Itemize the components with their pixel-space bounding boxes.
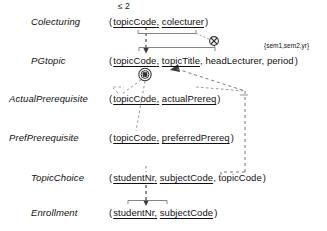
close-paren: ) [230,132,235,143]
attr-sep: , [262,55,265,66]
attribute-studentnr: studentNr [113,207,154,218]
attribute-topiccode: topicCode [219,172,262,183]
attribute-topictitle: topicTitle [162,55,200,66]
attribute-period: period [267,55,294,66]
attribute-topiccode: topicCode [113,16,156,27]
fk-arrow-topicchoice-to-enrollment [128,185,167,204]
cardinality-constraint-label: ≤ 2 [118,1,130,11]
relation-name-topicchoice: TopicChoice [31,172,84,183]
schema-diagram-canvas: ≤ 2 {sem1,sem2,yr} Colecturing (topicCod… [0,0,327,231]
close-paren: ) [262,172,267,183]
bracket-pgtopic [139,44,215,51]
fk-arrow-topicchoice-to-pgtopic [177,69,245,176]
xor-branch-to-actualprerequisite [122,80,141,94]
close-paren: ) [294,55,299,66]
relation-attributes-enrollment: (studentNr, subjectCode) [108,207,218,218]
close-paren: ) [204,16,209,27]
relation-attributes-pgtopic: (topicCode, topicTitle, headLecturer, pe… [108,55,299,66]
relation-name-prefprerequisite: PrefPrerequisite [9,132,79,143]
attribute-preferredprereq: preferredPrereq [162,132,230,143]
exclusive-or-constraint-symbol [139,68,151,80]
xor-branch-to-prefprerequisite [136,81,145,131]
relation-attributes-topicchoice: (studentNr, subjectCode, topicCode) [108,172,267,183]
close-paren: ) [216,93,221,104]
attr-sep: , [156,16,159,27]
relation-name-actualprerequisite: ActualPrerequisite [9,93,88,104]
attribute-topiccode: topicCode [113,93,156,104]
close-paren: ) [213,207,218,218]
attr-sep: , [154,172,157,183]
relation-attributes-colecturing: (topicCode, colecturer) [108,16,209,27]
attribute-studentnr: studentNr [113,172,154,183]
attribute-subjectcode: subjectCode [160,207,213,218]
relation-attributes-prefprerequisite: (topicCode, preferredPrereq) [108,132,235,143]
attr-sep: , [156,93,159,104]
attr-sep: , [213,172,216,183]
attribute-headlecturer: headLecturer [205,55,261,66]
attribute-topiccode: topicCode [113,132,156,143]
exclusion-constraint-symbol-upper [210,37,219,46]
attr-sep: , [156,55,159,66]
attr-sep: , [154,207,157,218]
bracket-colecturing [138,30,214,41]
attribute-topiccode: topicCode [113,55,156,66]
value-constraint-label: {sem1,sem2,yr} [264,42,309,49]
attribute-colecturer: colecturer [162,16,204,27]
relation-attributes-actualprerequisite: (topicCode, actualPrereq) [108,93,222,104]
attribute-subjectcode: subjectCode [160,172,213,183]
attribute-actualprereq: actualPrereq [162,93,216,104]
relation-name-enrollment: Enrollment [31,207,77,218]
connector-layer [0,0,327,231]
attr-sep: , [156,132,159,143]
relation-name-colecturing: Colecturing [31,16,80,27]
relation-name-pgtopic: PGtopic [31,55,66,66]
attr-sep: , [200,55,203,66]
